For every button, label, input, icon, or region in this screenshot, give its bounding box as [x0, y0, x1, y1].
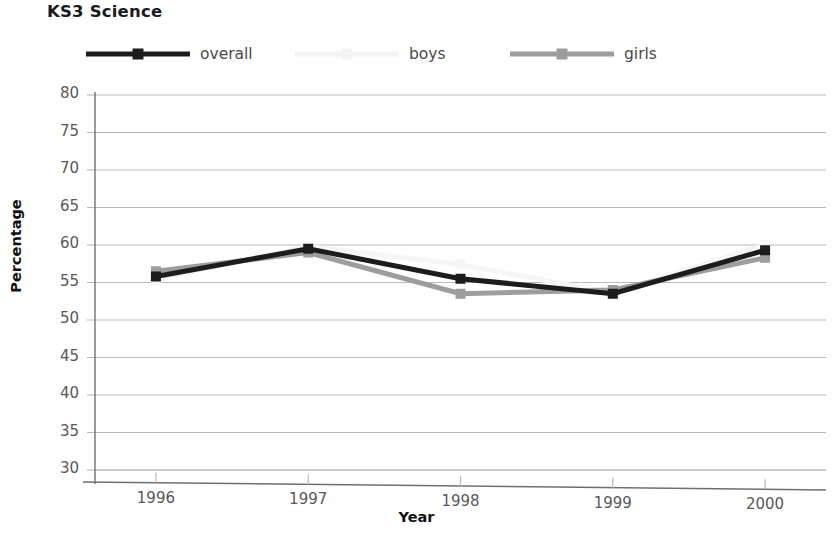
x-axis-title: Year — [0, 509, 833, 525]
x-tick-label-1999: 1999 — [578, 494, 648, 512]
x-axis-line — [83, 482, 826, 490]
y-tick-label-60: 60 — [39, 234, 79, 252]
x-tick-label-1998: 1998 — [426, 492, 496, 510]
y-tick-label-50: 50 — [39, 309, 79, 327]
x-tick-label-2000: 2000 — [730, 495, 800, 513]
datapoint-boys-1998 — [456, 260, 466, 270]
y-tick-label-35: 35 — [39, 422, 79, 440]
datapoint-overall-1997 — [303, 244, 313, 254]
y-axis-title: Percentage — [8, 186, 24, 306]
y-tick-label-45: 45 — [39, 347, 79, 365]
x-tick-label-1997: 1997 — [273, 490, 343, 508]
datapoint-overall-1999 — [608, 289, 618, 299]
y-tick-label-70: 70 — [39, 159, 79, 177]
y-tick-label-75: 75 — [39, 122, 79, 140]
datapoint-overall-1998 — [456, 274, 466, 284]
datapoint-girls-1998 — [456, 289, 466, 299]
datapoint-overall-1996 — [151, 272, 161, 282]
y-tick-label-65: 65 — [39, 197, 79, 215]
y-tick-label-55: 55 — [39, 272, 79, 290]
datapoint-overall-2000 — [760, 245, 770, 255]
y-tick-label-40: 40 — [39, 384, 79, 402]
x-tick-label-1996: 1996 — [121, 489, 191, 507]
y-tick-label-30: 30 — [39, 459, 79, 477]
line-chart-svg — [0, 0, 833, 535]
y-tick-label-80: 80 — [39, 84, 79, 102]
chart-plot-area: Percentage Year 303540455055606570758019… — [0, 0, 833, 535]
